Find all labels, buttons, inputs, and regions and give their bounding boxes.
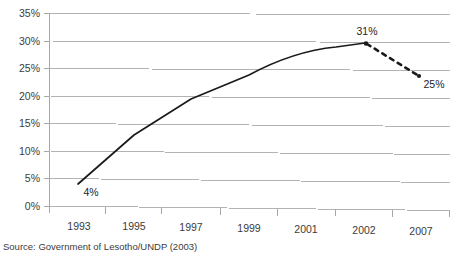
y-axis-tick-label: 30% xyxy=(19,35,40,47)
x-axis-tick-label: 1993 xyxy=(67,220,91,232)
x-axis-tick-label: 1995 xyxy=(122,220,146,232)
gridlines xyxy=(49,14,450,211)
source-caption: Source: Government of Lesotho/UNDP (2003… xyxy=(3,241,197,252)
chart-canvas: 35% 30% 25% 20% 15% 10% 5% 0% 1993 1995 … xyxy=(0,0,456,260)
y-axis-tick-label: 10% xyxy=(19,145,40,157)
series-line-projected xyxy=(367,44,419,76)
x-axis-ticks xyxy=(50,206,450,217)
y-axis-ticks xyxy=(44,14,49,207)
y-axis-tick-label: 15% xyxy=(19,117,40,129)
y-axis-tick-label: 0% xyxy=(25,200,40,212)
y-axis-tick-label: 5% xyxy=(25,172,40,184)
x-axis-tick-label: 2002 xyxy=(352,224,376,236)
data-label-2007: 25% xyxy=(423,78,444,90)
line-chart-figure: 35% 30% 25% 20% 15% 10% 5% 0% 1993 1995 … xyxy=(0,0,456,260)
x-axis-tick-label: 1999 xyxy=(237,222,261,234)
y-axis-tick-label: 25% xyxy=(19,62,40,74)
y-axis-tick-label: 35% xyxy=(19,7,40,19)
data-label-2002: 31% xyxy=(356,25,377,37)
data-point-marker-2007 xyxy=(417,74,421,78)
x-axis-tick-label: 2007 xyxy=(409,225,433,237)
data-point-marker-2002 xyxy=(364,41,369,46)
y-axis-tick-label: 20% xyxy=(19,90,40,102)
data-label-1993: 4% xyxy=(83,186,98,198)
x-axis-tick-label: 2001 xyxy=(294,223,318,235)
x-axis-tick-label: 1997 xyxy=(179,221,203,233)
series-line-observed xyxy=(78,43,365,184)
